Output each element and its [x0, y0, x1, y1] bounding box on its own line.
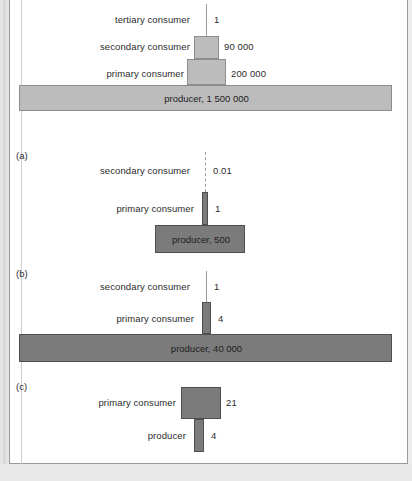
section-tag-a: (a)	[16, 150, 28, 161]
label-secondary-consumer-top: secondary consumer	[66, 41, 190, 52]
bar-primary-consumer-c	[181, 387, 221, 419]
value-secondary-consumer-b: 1	[214, 281, 219, 292]
value-tertiary-consumer-top: 1	[214, 14, 219, 25]
label-primary-consumer-a: primary consumer	[70, 203, 194, 214]
bar-primary-consumer-b	[202, 302, 211, 334]
bar-secondary-consumer-b	[206, 271, 207, 302]
label-producer-c: producer	[86, 430, 186, 441]
value-producer-b: producer, 40 000	[20, 343, 393, 354]
page-bottom-margin	[0, 464, 412, 481]
label-tertiary-consumer-top: tertiary consumer	[66, 14, 190, 25]
bar-secondary-consumer-a	[205, 152, 206, 192]
bar-primary-consumer-top	[187, 59, 226, 85]
value-primary-consumer-b: 4	[218, 313, 223, 324]
label-secondary-consumer-b: secondary consumer	[66, 281, 190, 292]
label-primary-consumer-top: primary consumer	[60, 68, 184, 79]
section-tag-b: (b)	[16, 268, 28, 279]
bar-producer-a: producer, 500	[155, 225, 245, 253]
bar-secondary-consumer-top	[194, 36, 219, 59]
label-primary-consumer-c: primary consumer	[58, 397, 176, 408]
bar-tertiary-consumer-top	[206, 4, 207, 36]
value-secondary-consumer-top: 90 000	[224, 41, 254, 52]
label-primary-consumer-b: primary consumer	[70, 313, 194, 324]
bar-producer-top: producer, 1 500 000	[19, 85, 392, 111]
value-producer-top: producer, 1 500 000	[20, 93, 393, 104]
figure-page: tertiary consumer 1 secondary consumer 9…	[0, 0, 412, 481]
value-producer-c: 4	[211, 430, 216, 441]
value-producer-a: producer, 500	[156, 234, 246, 245]
label-secondary-consumer-a: secondary consumer	[66, 165, 190, 176]
value-primary-consumer-top: 200 000	[231, 68, 266, 79]
bar-producer-c	[194, 419, 204, 452]
value-primary-consumer-c: 21	[226, 397, 237, 408]
bar-producer-b: producer, 40 000	[19, 334, 392, 362]
bar-primary-consumer-a	[202, 192, 208, 225]
value-primary-consumer-a: 1	[215, 203, 220, 214]
section-tag-c: (c)	[16, 381, 27, 392]
value-secondary-consumer-a: 0.01	[213, 165, 232, 176]
figure-canvas: tertiary consumer 1 secondary consumer 9…	[0, 0, 412, 481]
